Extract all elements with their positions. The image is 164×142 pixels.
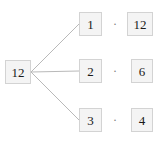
multiplication-dot-row-3: · (108, 108, 122, 132)
factor-left-node-row-2: 2 (79, 59, 102, 83)
factor-right-node-row-3: 4 (131, 108, 153, 132)
factor-right-node-row-1: 12 (127, 12, 153, 36)
factor-left-node-row-1: 1 (79, 12, 102, 36)
factor-right-node-row-2: 6 (131, 59, 153, 83)
root-node-12: 12 (5, 60, 31, 84)
multiplication-dot-row-1: · (108, 12, 122, 36)
edge-root-to-factor-1 (31, 24, 79, 72)
factor-left-node-row-3: 3 (79, 108, 102, 132)
factor-tree-diagram: 12 1 · 12 2 · 6 3 · 4 (0, 0, 164, 142)
edge-root-to-factor-2 (31, 71, 79, 72)
edge-root-to-factor-3 (31, 72, 79, 120)
multiplication-dot-row-2: · (108, 59, 122, 83)
